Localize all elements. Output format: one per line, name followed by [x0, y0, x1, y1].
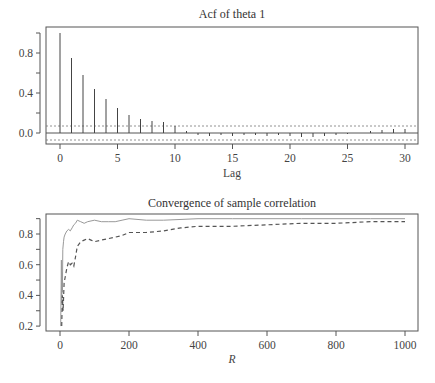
acf-x-tick-label: 5 — [115, 152, 121, 164]
convergence-x-axis-label: R — [227, 353, 235, 365]
figure: Acf of theta 1 0.00.40.8 051015202530 La… — [0, 0, 435, 383]
convergence-chart-title: Convergence of sample correlation — [148, 196, 316, 210]
dashed-series-line — [62, 222, 405, 326]
acf-x-axis-label: Lag — [223, 167, 241, 180]
convergence-x-axis: 02004006008001000 — [57, 331, 417, 351]
acf-y-tick-label: 0.4 — [19, 87, 34, 99]
convergence-x-tick-label: 1000 — [394, 339, 417, 351]
acf-y-tick-label: 0.0 — [19, 127, 34, 139]
acf-x-tick-label: 15 — [227, 152, 239, 164]
acf-plot-frame — [46, 27, 418, 144]
convergence-plot-frame — [46, 214, 418, 331]
acf-x-tick-label: 10 — [169, 152, 181, 164]
acf-x-tick-label: 20 — [284, 152, 296, 164]
convergence-y-tick-label: 0.8 — [19, 228, 34, 240]
convergence-x-tick-label: 600 — [258, 339, 276, 351]
acf-chart: Acf of theta 1 0.00.40.8 051015202530 La… — [19, 7, 418, 180]
convergence-y-tick-label: 0.6 — [19, 259, 34, 271]
convergence-x-tick-label: 200 — [120, 339, 138, 351]
acf-x-tick-label: 30 — [399, 152, 411, 164]
convergence-y-axis: 0.20.40.60.8 — [19, 219, 40, 332]
convergence-x-tick-label: 400 — [189, 339, 207, 351]
acf-chart-title: Acf of theta 1 — [199, 7, 265, 21]
acf-y-tick-label: 0.8 — [19, 47, 34, 59]
acf-y-axis: 0.00.40.8 — [19, 33, 40, 139]
acf-x-tick-label: 0 — [57, 152, 63, 164]
convergence-y-tick-label: 0.4 — [19, 289, 34, 301]
solid-series-line — [61, 219, 405, 326]
acf-x-tick-label: 25 — [342, 152, 354, 164]
convergence-y-tick-label: 0.2 — [19, 320, 34, 332]
acf-stems — [60, 33, 405, 137]
convergence-x-tick-label: 0 — [57, 339, 63, 351]
convergence-lines — [61, 219, 405, 326]
acf-x-axis: 051015202530 — [57, 144, 411, 164]
convergence-chart: Convergence of sample correlation 0.20.4… — [19, 196, 418, 365]
convergence-x-tick-label: 800 — [327, 339, 345, 351]
